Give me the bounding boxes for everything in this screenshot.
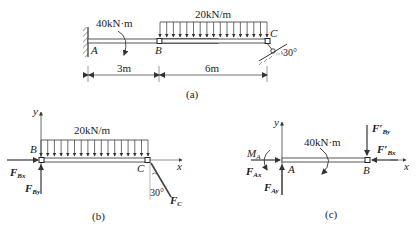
svg-text:x: x	[176, 160, 182, 172]
caption-b: (b)	[92, 210, 105, 223]
angle-label-a: 30°	[283, 47, 297, 58]
point-b-label-c: B	[363, 164, 370, 176]
beam-bc	[41, 158, 148, 162]
hinge-b	[157, 39, 162, 44]
caption-a: (a)	[186, 88, 199, 101]
force-bx-prime-label: F′Bx	[376, 143, 396, 157]
force-ay-label: FAy	[263, 181, 279, 195]
dim-bc-label: 6m	[205, 62, 220, 74]
caption-c: (c)	[325, 208, 338, 221]
distributed-load-arrows-b	[41, 140, 148, 156]
moment-a-label: MA	[246, 147, 261, 161]
load-label-a: 20kN/m	[195, 8, 232, 20]
force-by-label: FBy	[24, 182, 41, 196]
point-a-label: A	[90, 44, 98, 56]
svg-text:y: y	[32, 105, 38, 117]
fixed-wall-support	[83, 27, 88, 57]
dim-ab-label: 3m	[117, 62, 132, 74]
svg-text:y: y	[273, 116, 279, 128]
moment-label-c: 40kN·m	[304, 136, 341, 148]
angle-label-b: 30°	[150, 187, 164, 198]
figure-b: y x 20kN/m B C	[7, 105, 182, 223]
force-c-label: FC	[169, 194, 182, 208]
moment-label-a: 40kN·m	[96, 17, 133, 29]
point-a-label-c: A	[287, 163, 295, 175]
hinge-c	[265, 39, 270, 44]
force-by-prime-label: F′By	[371, 122, 391, 136]
point-c-label-b: C	[137, 162, 145, 174]
figure-c: y x A B 40kN·m MA FAx FAy F′By F′Bx (c)	[245, 116, 409, 221]
point-b-label-b: B	[30, 143, 37, 155]
force-bx-label: FBx	[9, 166, 26, 180]
beam-ab-c	[282, 158, 367, 162]
distributed-load-arrows	[160, 22, 267, 37]
svg-text:x: x	[403, 160, 409, 172]
force-ax-label: FAx	[245, 165, 262, 179]
load-label-b: 20kN/m	[74, 124, 111, 136]
point-b-label: B	[155, 44, 162, 56]
figure-a: 20kN/m 40kN·m A B C 30° 3m 6m (a)	[83, 8, 297, 101]
point-c-label: C	[270, 27, 278, 39]
